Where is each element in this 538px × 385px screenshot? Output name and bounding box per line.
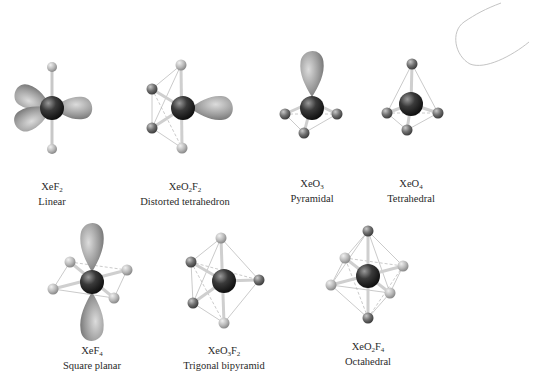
oxygen-atom bbox=[402, 125, 413, 136]
oxygen-atom bbox=[299, 128, 310, 139]
molecule-xef2 bbox=[11, 62, 93, 154]
label-xeo3f2: XeO3F2 Trigonal bipyramid bbox=[144, 345, 304, 372]
oxygen-atom bbox=[407, 59, 418, 70]
fluorine-atom bbox=[398, 261, 409, 272]
label-xeo2f4: XeO2F4 Octahedral bbox=[288, 341, 448, 368]
oxygen-atom bbox=[382, 108, 393, 119]
geometry-xeo3f2: Trigonal bipyramid bbox=[144, 360, 304, 372]
xenon-atom bbox=[40, 96, 64, 120]
molecule-xef4 bbox=[48, 223, 133, 341]
fluorine-atom bbox=[219, 318, 230, 329]
oxygen-atom bbox=[363, 226, 374, 237]
molecule-xeo3f2 bbox=[186, 233, 265, 329]
fluorine-atom bbox=[109, 293, 120, 304]
label-xeo4: XeO4 Tetrahedral bbox=[331, 178, 491, 205]
fluorine-atom bbox=[216, 233, 227, 244]
oxygen-atom bbox=[363, 313, 374, 324]
oxygen-atom bbox=[147, 84, 158, 95]
fluorine-atom bbox=[65, 257, 76, 268]
fluorine-atom bbox=[48, 284, 59, 295]
geometry-xeo4: Tetrahedral bbox=[331, 193, 491, 205]
lone-pair-icon bbox=[80, 223, 103, 272]
oxygen-atom bbox=[254, 275, 265, 286]
fluorine-atom bbox=[122, 265, 133, 276]
formula-xeo2f4: XeO2F4 bbox=[288, 341, 448, 356]
molecule-xeo2f4 bbox=[326, 226, 409, 324]
oxygen-atom bbox=[186, 257, 197, 268]
lone-pair-icon bbox=[80, 292, 103, 341]
formula-xeo3f2: XeO3F2 bbox=[144, 345, 304, 360]
oxygen-atom bbox=[433, 108, 444, 119]
molecule-xeo4 bbox=[382, 59, 444, 136]
molecule-xeo2f2 bbox=[147, 60, 233, 154]
oxygen-atom bbox=[188, 298, 199, 309]
fluorine-atom bbox=[340, 253, 351, 264]
fluorine-atom bbox=[326, 280, 337, 291]
lone-pair-icon bbox=[190, 96, 233, 120]
xenon-atom bbox=[300, 96, 324, 120]
fluorine-atom bbox=[385, 288, 396, 299]
xenon-atom bbox=[212, 269, 236, 293]
geometry-xeo2f4: Octahedral bbox=[288, 356, 448, 368]
fluorine-atom bbox=[177, 143, 188, 154]
formula-xeo4: XeO4 bbox=[331, 178, 491, 193]
xenon-atom bbox=[356, 264, 380, 288]
molecule-xeo3 bbox=[280, 51, 343, 138]
xenon-atom bbox=[171, 96, 195, 120]
oxygen-atom bbox=[147, 123, 158, 134]
oxygen-atom bbox=[280, 109, 291, 120]
oxygen-atom bbox=[332, 109, 343, 120]
fluorine-atom bbox=[47, 62, 57, 72]
lone-pair-icon bbox=[300, 51, 323, 97]
fluorine-atom bbox=[176, 60, 187, 71]
xenon-atom bbox=[399, 92, 423, 116]
fluorine-atom bbox=[47, 144, 57, 154]
stray-curve bbox=[456, 3, 529, 65]
xenon-atom bbox=[80, 270, 104, 294]
